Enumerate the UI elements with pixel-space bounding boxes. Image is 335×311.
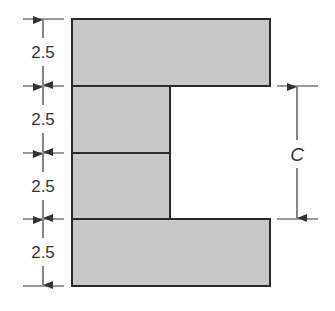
lower-web-block	[72, 153, 170, 219]
top-flange	[72, 19, 270, 86]
dimension-label-2: 2.5	[31, 110, 55, 129]
dimension-label-4: 2.5	[31, 243, 55, 262]
section-shapes	[72, 19, 270, 286]
gap-label-c: C	[290, 144, 304, 165]
dimension-label-1: 2.5	[31, 43, 55, 62]
dimension-label-3: 2.5	[31, 177, 55, 196]
bottom-flange	[72, 219, 270, 286]
upper-web-block	[72, 86, 170, 153]
c-section-diagram: 2.5 2.5 2.5 2.5 C	[0, 0, 335, 311]
